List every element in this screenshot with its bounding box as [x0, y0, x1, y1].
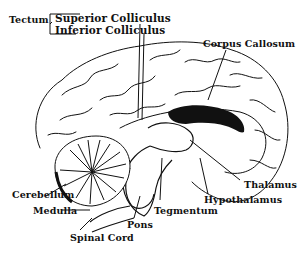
label-pons: Pons: [127, 220, 153, 230]
leader-corpus-callosum: [208, 50, 226, 100]
leader-spinal-cord: [80, 218, 92, 230]
label-spinal-cord: Spinal Cord: [70, 233, 134, 243]
pons-shape: [126, 168, 154, 208]
label-thalamus: Thalamus: [244, 180, 297, 190]
leader-hypothalamus: [200, 158, 208, 194]
label-tectum: Tectum: [9, 15, 49, 25]
label-cerebellum: Cerebellum: [12, 190, 75, 200]
leader-pons: [134, 196, 140, 218]
leader-colliculi: [138, 24, 144, 120]
label-inferior-colliculus: Inferior Colliculus: [55, 25, 165, 36]
corpus-callosum-shape: [168, 105, 244, 132]
leader-thalamus: [190, 140, 240, 180]
label-hypothalamus: Hypothalamus: [204, 195, 282, 205]
label-tegmentum: Tegmentum: [154, 206, 218, 216]
leader-tegmentum: [160, 158, 162, 200]
label-medulla: Medulla: [33, 206, 77, 216]
label-corpus-callosum: Corpus Callosum: [203, 39, 295, 49]
label-superior-colliculus: Superior Colliculus: [55, 13, 171, 24]
thalamus-shape: [148, 123, 193, 152]
